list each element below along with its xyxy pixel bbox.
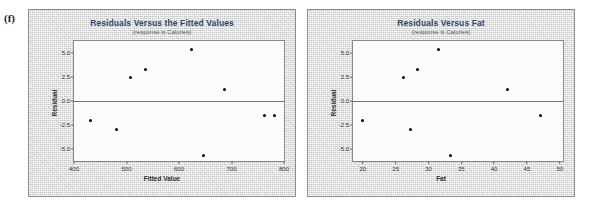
data-point xyxy=(223,88,226,91)
x-axis-tick: 500 xyxy=(121,161,131,172)
y-axis-tick: 0.0 xyxy=(62,98,74,104)
x-axis-tick: 30 xyxy=(425,161,432,172)
zero-reference-line xyxy=(353,101,563,102)
data-point xyxy=(144,68,147,71)
x-axis-tick: 50 xyxy=(556,161,563,172)
data-point xyxy=(437,48,440,51)
data-point xyxy=(89,119,92,122)
y-axis-tick: -5.0 xyxy=(60,146,74,152)
y-axis-tick: -5.0 xyxy=(339,146,353,152)
y-axis-label: Residual xyxy=(330,89,337,116)
panel-label: (f) xyxy=(4,12,15,24)
x-axis-label: Fat xyxy=(308,175,574,182)
x-axis-tick: 45 xyxy=(524,161,531,172)
data-point xyxy=(273,114,276,117)
data-point xyxy=(263,114,266,117)
chart-residuals-vs-fitted: Residuals Versus the Fitted Values (resp… xyxy=(28,9,296,197)
y-axis-tick: -2.5 xyxy=(60,122,74,128)
x-axis-tick: 700 xyxy=(226,161,236,172)
chart-subtitle: (response is Calories) xyxy=(308,29,574,35)
plot-area: -5.0-2.50.02.55.0400500600700800 xyxy=(73,40,285,162)
zero-reference-line xyxy=(74,101,284,102)
x-axis-tick: 25 xyxy=(392,161,399,172)
chart-residuals-vs-fat: Residuals Versus Fat (response is Calori… xyxy=(307,9,575,197)
x-axis-tick: 600 xyxy=(174,161,184,172)
data-point xyxy=(416,68,419,71)
y-axis-tick: 2.5 xyxy=(341,74,353,80)
data-point xyxy=(506,88,509,91)
data-point xyxy=(409,128,412,131)
data-point xyxy=(202,154,205,157)
x-axis-tick: 20 xyxy=(360,161,367,172)
data-point xyxy=(129,76,132,79)
data-point xyxy=(115,128,118,131)
plot-area: -5.0-2.50.02.55.020253035404550 xyxy=(352,40,564,162)
x-axis-tick: 35 xyxy=(458,161,465,172)
y-axis-label: Residual xyxy=(51,89,58,116)
y-axis-tick: -2.5 xyxy=(339,122,353,128)
chart-subtitle: (response is Calories) xyxy=(29,29,295,35)
x-axis-tick: 800 xyxy=(279,161,289,172)
data-point xyxy=(449,154,452,157)
y-axis-tick: 2.5 xyxy=(62,74,74,80)
data-point xyxy=(190,48,193,51)
data-point xyxy=(402,76,405,79)
y-axis-tick: 5.0 xyxy=(341,50,353,56)
y-axis-tick: 0.0 xyxy=(341,98,353,104)
data-point xyxy=(361,119,364,122)
chart-title: Residuals Versus Fat xyxy=(308,18,574,28)
x-axis-tick: 400 xyxy=(69,161,79,172)
figure-container: (f) Residuals Versus the Fitted Values (… xyxy=(0,0,594,207)
x-axis-tick: 40 xyxy=(491,161,498,172)
data-point xyxy=(539,114,542,117)
y-axis-tick: 5.0 xyxy=(62,50,74,56)
x-axis-label: Fitted Value xyxy=(29,175,295,182)
chart-title: Residuals Versus the Fitted Values xyxy=(29,18,295,28)
